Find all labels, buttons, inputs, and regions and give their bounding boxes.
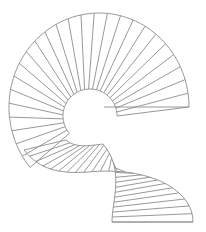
outer-stringer — [24, 150, 193, 222]
stair-tread-line — [9, 103, 63, 115]
stair-tread-line — [11, 89, 64, 111]
stair-tread-line — [26, 52, 68, 101]
stair-tread-line — [92, 149, 107, 172]
lower-flight — [24, 140, 193, 222]
stair-tread-line — [117, 107, 189, 116]
stair-tread-line — [113, 206, 189, 212]
stair-tread-line — [67, 145, 94, 172]
stair-tread-line — [100, 153, 109, 171]
stair-tread-line — [112, 55, 173, 101]
spiral-staircase-drawing — [0, 0, 206, 232]
stair-tread-line — [51, 146, 85, 169]
inner-stringer — [66, 140, 116, 222]
stair-tread-line — [81, 15, 85, 90]
stair-tread-line — [75, 145, 99, 173]
stair-tread-line — [115, 188, 173, 197]
stair-tread-line — [113, 199, 184, 207]
stair-tread-line — [117, 93, 188, 112]
stair-tread-line — [89, 13, 95, 89]
stair-tread-line — [115, 184, 165, 193]
staircase-diagram — [0, 0, 206, 232]
stair-tread-line — [24, 140, 66, 150]
stair-tread-line — [56, 24, 77, 92]
stair-tread-line — [109, 158, 112, 171]
stair-tread-line — [112, 214, 192, 217]
stair-tread-line — [104, 26, 145, 93]
stair-tread-line — [68, 19, 81, 91]
stair-tread-line — [116, 177, 150, 182]
inner-stringer — [63, 89, 117, 133]
stair-tread-line — [10, 117, 64, 119]
stair-tread-line — [116, 175, 142, 177]
stair-tread-line — [107, 34, 156, 95]
